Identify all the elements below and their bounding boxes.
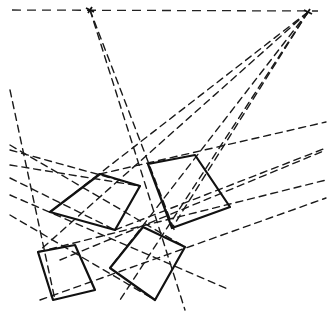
sketch-svg bbox=[0, 0, 331, 312]
construction-line bbox=[38, 180, 326, 252]
quad-upper-left bbox=[50, 174, 140, 230]
horizon-line bbox=[12, 10, 318, 11]
construction-line bbox=[120, 12, 308, 300]
construction-line bbox=[38, 12, 308, 252]
construction-line bbox=[10, 90, 55, 300]
construction-line bbox=[10, 178, 115, 230]
perspective-sketch bbox=[0, 0, 331, 312]
quad-lower-left bbox=[38, 245, 95, 300]
quad-lower-middle bbox=[110, 227, 185, 300]
construction-line bbox=[60, 150, 326, 260]
construction-line bbox=[115, 148, 326, 230]
